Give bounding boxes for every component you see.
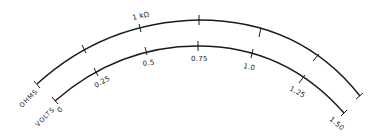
volts-label-05: 0.5 xyxy=(142,58,155,68)
volts-label-075: 0.75 xyxy=(191,55,208,63)
volts-ticks xyxy=(52,41,347,116)
volts-label-150: 1.50 xyxy=(328,115,346,132)
ohms-tick-end xyxy=(356,93,363,99)
volts-label-025: 0.25 xyxy=(93,74,112,89)
ohms-tick xyxy=(313,54,319,61)
volts-label-125: 1.25 xyxy=(288,85,307,100)
volts-tick-05 xyxy=(145,47,147,55)
volts-label-0: 0 xyxy=(56,105,65,114)
volts-label-10: 1.0 xyxy=(243,62,256,72)
ohms-tick xyxy=(259,28,261,37)
ohms-label-1k: 1 kΩ xyxy=(132,10,151,22)
meter-scale-diagram: OHMS 1 kΩ VOLTS 0 0.25 0.5 0.75 1.0 1.25… xyxy=(0,0,385,139)
volts-tick-0 xyxy=(52,97,58,104)
ohms-axis-name: OHMS xyxy=(18,88,40,110)
volts-axis-name: VOLTS xyxy=(34,106,57,129)
